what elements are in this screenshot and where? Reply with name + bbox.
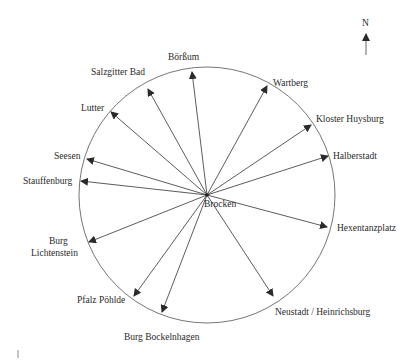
label-neustadt-heinrichsburg: Neustadt / Heinrichsburg xyxy=(275,307,371,317)
ray-salzgitter-bad xyxy=(148,89,207,195)
label-hexentanzplatz: Hexentanzplatz xyxy=(337,223,396,233)
center-label-brocken: Brocken xyxy=(204,199,236,209)
sightline-rays xyxy=(81,72,328,312)
ray-stauffenburg xyxy=(81,181,207,195)
label-kloster-huysburg: Kloster Huysburg xyxy=(316,114,384,124)
ray-kloster-huysburg xyxy=(207,125,311,195)
label-burg: Burg xyxy=(49,236,68,246)
center-point xyxy=(205,193,209,197)
north-arrow: N xyxy=(362,18,369,55)
ray-bo-r-um xyxy=(192,72,207,195)
label-wartberg: Wartberg xyxy=(273,78,308,88)
label-pfalz-po-hlde: Pfalz Pöhlde xyxy=(77,295,125,305)
label-burg-bockelnhagen: Burg Bockelnhagen xyxy=(124,332,200,342)
ray-pfalz-po-hlde xyxy=(134,195,207,296)
sightline-diagram: BörßumSalzgitter BadLutterSeesenStauffen… xyxy=(0,0,420,362)
ray-burg-bockelnhagen xyxy=(162,195,207,312)
label-salzgitter-bad: Salzgitter Bad xyxy=(91,67,145,77)
ray-seesen xyxy=(87,159,207,195)
label-lutter: Lutter xyxy=(81,103,105,113)
label-lichtenstein: Lichtenstein xyxy=(31,248,78,258)
label-halberstadt: Halberstadt xyxy=(333,151,377,161)
ray-burg xyxy=(89,195,207,242)
ray-lutter xyxy=(111,112,207,195)
label-bo-r-um: Börßum xyxy=(168,52,200,62)
north-label: N xyxy=(362,18,369,28)
label-seesen: Seesen xyxy=(54,151,81,161)
label-stauffenburg: Stauffenburg xyxy=(23,176,73,186)
